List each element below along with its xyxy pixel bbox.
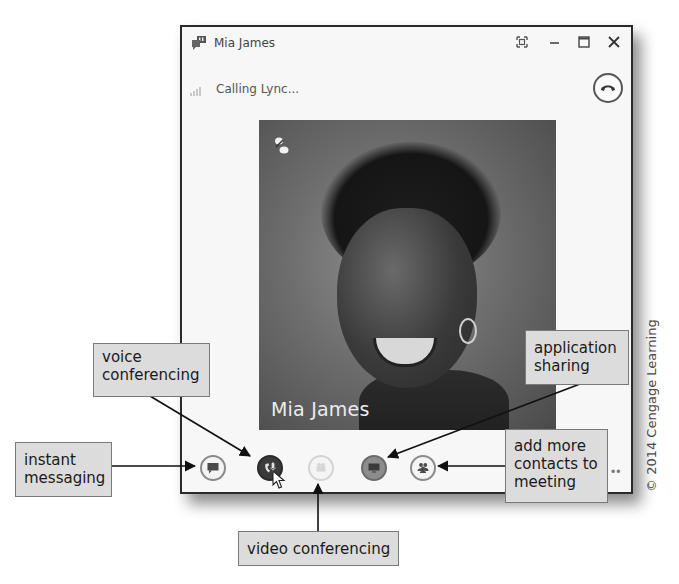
photo-earring: [459, 318, 477, 344]
callout-video-conferencing: video conferencing: [238, 531, 399, 566]
window-title: Mia James: [214, 36, 275, 50]
hang-up-button[interactable]: [593, 73, 623, 103]
maximize-icon[interactable]: [575, 33, 593, 51]
mouse-cursor-icon: [272, 470, 286, 490]
lync-conversation-window: Mia James Calling Lync...: [180, 25, 633, 494]
fullscreen-icon[interactable]: [513, 33, 531, 51]
status-text: Calling Lync...: [216, 82, 299, 96]
callout-instant-messaging: instant messaging: [15, 442, 112, 497]
people-icon: [416, 461, 430, 475]
monitor-icon: [367, 461, 381, 475]
signal-strength-icon: [190, 84, 204, 96]
instant-messaging-button[interactable]: [200, 455, 226, 481]
copyright-notice: © 2014 Cengage Learning: [644, 319, 659, 492]
application-sharing-button[interactable]: [361, 455, 387, 481]
im-bubble-icon: [206, 461, 220, 475]
video-camera-icon: [314, 461, 328, 475]
contact-name-caption: Mia James: [271, 398, 370, 420]
add-contacts-button[interactable]: [410, 455, 436, 481]
title-bar: Mia James: [182, 27, 631, 57]
callout-voice-conferencing: voice conferencing: [93, 343, 210, 397]
callout-add-contacts: add more contacts to meeting: [505, 429, 608, 503]
close-icon[interactable]: [605, 33, 623, 51]
hang-up-icon: [595, 75, 621, 101]
video-conferencing-button[interactable]: [308, 455, 334, 481]
callout-application-sharing: application sharing: [525, 330, 629, 385]
minimize-icon[interactable]: [546, 33, 564, 51]
conversation-icon: [191, 35, 207, 51]
contact-video-photo: Mia James: [259, 120, 556, 430]
more-options-button[interactable]: ••: [611, 465, 621, 479]
presence-pause-icon[interactable]: [271, 134, 293, 158]
